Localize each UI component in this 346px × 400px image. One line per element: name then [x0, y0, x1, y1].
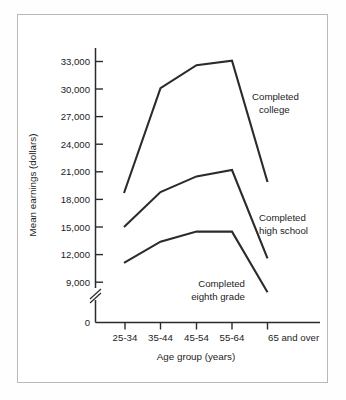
y-tick-label-24000: 24,000 — [61, 139, 90, 150]
x-axis-title: Age group (years) — [157, 351, 235, 362]
x-tick-label-55-64: 55-64 — [220, 332, 245, 343]
annotation-completed-college: Completed college — [252, 91, 299, 115]
series-line-completed-eighth-grade — [124, 232, 268, 293]
series-line-completed-high-school — [124, 170, 268, 258]
x-tick-label-25-34: 25-34 — [113, 332, 138, 343]
y-tick-marks — [96, 62, 104, 283]
figure-container: 33,000 30,000 27,000 24,000 21,000 18,00… — [0, 0, 346, 400]
y-tick-label-9000: 9,000 — [66, 277, 90, 288]
y-tick-label-15000: 15,000 — [61, 222, 90, 233]
y-tick-label-zero: 0 — [85, 317, 90, 328]
annotation-completed-eighth-grade: Completed eighth grade — [191, 278, 245, 302]
y-tick-label-18000: 18,000 — [61, 194, 90, 205]
y-tick-label-30000: 30,000 — [61, 84, 90, 95]
annotation-eighth-line1: Completed — [198, 278, 245, 289]
annotation-highschool-line2: high school — [259, 225, 308, 236]
y-tick-label-12000: 12,000 — [61, 249, 90, 260]
annotation-college-line1: Completed — [252, 91, 299, 102]
annotation-completed-high-school: Completed high school — [259, 212, 308, 236]
y-tick-label-33000: 33,000 — [61, 56, 90, 67]
annotation-eighth-line2: eighth grade — [191, 291, 245, 302]
annotation-college-line2: college — [259, 104, 290, 115]
y-axis-title: Mean earnings (dollars) — [27, 134, 38, 237]
line-chart: 33,000 30,000 27,000 24,000 21,000 18,00… — [0, 0, 346, 400]
y-tick-label-27000: 27,000 — [61, 111, 90, 122]
annotation-highschool-line1: Completed — [259, 212, 306, 223]
x-tick-label-45-54: 45-54 — [184, 332, 209, 343]
y-tick-label-21000: 21,000 — [61, 166, 90, 177]
x-tick-marks — [125, 323, 268, 330]
x-tick-label-65-and-over: 65 and over — [268, 332, 320, 343]
x-tick-label-35-44: 35-44 — [148, 332, 173, 343]
series-line-completed-college — [124, 61, 268, 193]
